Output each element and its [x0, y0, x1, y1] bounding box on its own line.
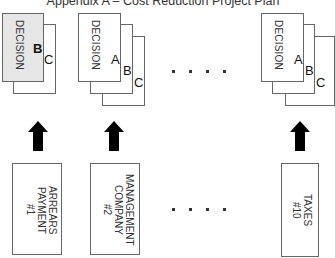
ellipsis-bottom — [172, 208, 226, 211]
project-label: ARREARS PAYMENT #1 — [25, 180, 58, 240]
project-line: TAXES — [302, 194, 313, 226]
dot — [223, 70, 226, 73]
ellipsis-top — [172, 70, 226, 73]
project-line: COMPANY — [113, 185, 124, 235]
up-arrow-icon — [28, 121, 48, 151]
diagram-title: Appendix A – Cost Reduction Project Plan — [0, 0, 326, 8]
dot — [206, 70, 209, 73]
project-line: #10 — [291, 202, 302, 219]
card-letter-front: A — [294, 52, 303, 67]
decision-label: DECISION — [14, 20, 25, 70]
decision-label: DECISION — [273, 20, 284, 70]
dot — [189, 208, 192, 211]
project-line: #2 — [102, 204, 113, 215]
project-line: #1 — [25, 204, 36, 215]
dot — [172, 208, 175, 211]
card-letter-b: B — [305, 63, 314, 78]
card-letter-c: C — [134, 75, 143, 90]
card-letter-front: A — [111, 52, 120, 67]
card-letter-c: C — [44, 52, 53, 67]
dot — [223, 208, 226, 211]
project-line: PAYMENT — [36, 187, 47, 234]
up-arrow-icon — [104, 121, 124, 151]
project-line: MANAGEMENT — [124, 174, 135, 246]
project-label: MANAGEMENT COMPANY #2 — [102, 168, 135, 252]
card-letter-b: B — [123, 63, 132, 78]
card-letter-c: C — [316, 75, 325, 90]
card-letter-front: B — [33, 41, 42, 56]
project-box-arrears-payment: ARREARS PAYMENT #1 — [12, 163, 62, 255]
project-line: ARREARS — [47, 186, 58, 234]
dot — [172, 70, 175, 73]
up-arrow-icon — [290, 121, 310, 151]
project-box-management-company: MANAGEMENT COMPANY #2 — [90, 163, 140, 255]
dot — [206, 208, 209, 211]
project-label: TAXES #10 — [291, 190, 313, 230]
project-box-taxes: TAXES #10 — [281, 163, 319, 257]
decision-label: DECISION — [90, 20, 101, 70]
dot — [189, 70, 192, 73]
